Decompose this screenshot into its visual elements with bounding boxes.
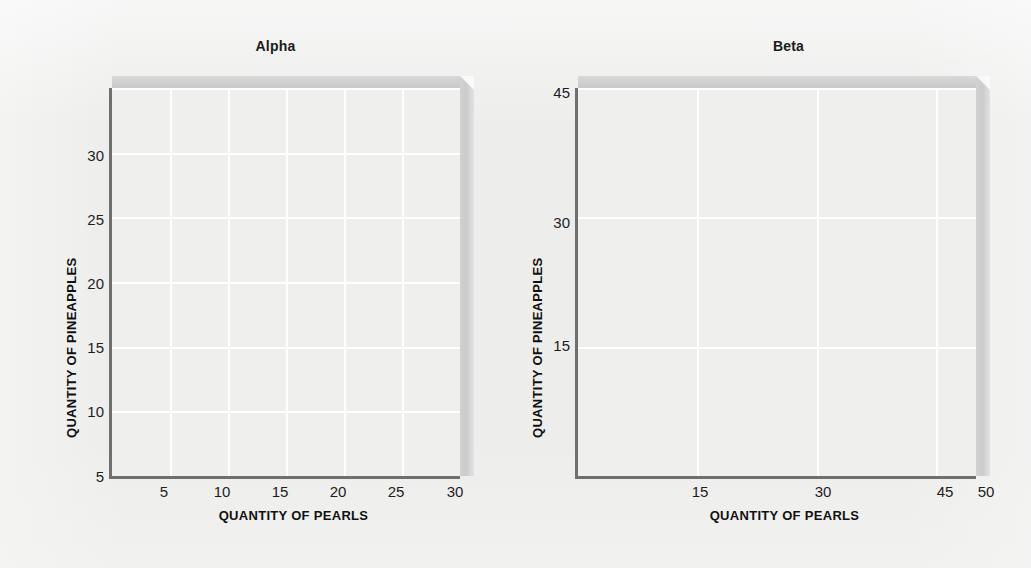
x-tick-label: 15 [272, 483, 289, 500]
plot-right-face [976, 76, 990, 476]
y-axis-line-alpha [109, 88, 112, 476]
y-tick-label: 15 [536, 337, 570, 354]
plot-box-beta [578, 76, 990, 476]
y-tick-label: 25 [70, 211, 104, 228]
y-tick-label: 30 [536, 214, 570, 231]
chart-title-beta: Beta [531, 38, 1031, 54]
x-axis-line-alpha [109, 476, 460, 479]
chart-panel-alpha: Alpha QUANTITY OF PINEAPPLES 5 10 15 20 … [0, 0, 515, 568]
y-tick-label: 30 [70, 147, 104, 164]
y-tick-label: 20 [70, 275, 104, 292]
x-tick-label: 30 [447, 483, 464, 500]
chart-title-alpha: Alpha [18, 38, 533, 54]
y-axis-line-beta [575, 88, 578, 476]
x-tick-label: 30 [815, 483, 832, 500]
x-tick-label: 50 [978, 483, 995, 500]
plot-top-face [112, 76, 474, 88]
plot-area-alpha [112, 88, 460, 476]
y-tick-label: 15 [70, 339, 104, 356]
plot-box-alpha [112, 76, 474, 476]
y-tick-label: 45 [536, 84, 570, 101]
x-tick-label: 20 [330, 483, 347, 500]
two-panel-figure: Alpha QUANTITY OF PINEAPPLES 5 10 15 20 … [0, 0, 1031, 568]
y-tick-label: 5 [70, 468, 104, 485]
y-tick-label: 10 [70, 403, 104, 420]
plot-top-face [578, 76, 990, 88]
chart-panel-beta: Beta QUANTITY OF PINEAPPLES 15 30 45 15 … [516, 0, 1031, 568]
x-tick-label: 15 [692, 483, 709, 500]
x-axis-title-alpha: QUANTITY OF PEARLS [0, 508, 515, 523]
x-tick-label: 45 [937, 483, 954, 500]
x-tick-label: 5 [160, 483, 168, 500]
x-tick-label: 25 [388, 483, 405, 500]
x-axis-title-beta: QUANTITY OF PEARLS [516, 508, 1031, 523]
x-tick-label: 10 [214, 483, 231, 500]
plot-area-beta [578, 88, 976, 476]
x-axis-line-beta [575, 476, 976, 479]
plot-right-face [460, 76, 474, 476]
